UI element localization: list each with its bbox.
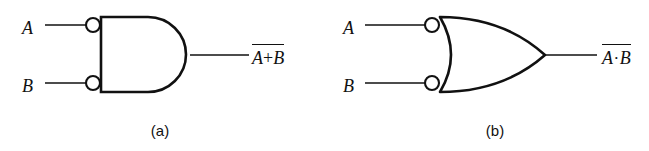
inversion-bubble-b [86,76,100,90]
output-operand-right: B [620,48,631,68]
output-expression-b: A·B [602,44,631,67]
output-operand-left: A [602,48,613,68]
inversion-bubble-b [425,76,439,90]
caption-b: (b) [465,123,525,138]
or-gate-body [440,17,545,92]
input-label-a: A [22,19,33,37]
output-expression-a: A+B [252,44,284,67]
input-label-a: A [343,19,354,37]
and-gate-body [101,17,186,92]
gate-panel-a: A B A+B (a) [0,0,325,151]
logic-gate-figure: A B A+B (a) A B A·B (b) [0,0,649,151]
inversion-bubble-a [425,18,439,32]
gate-panel-b: A B A·B (b) [325,0,649,151]
output-operator: · [613,49,620,68]
output-operand-left: A [252,48,263,68]
inversion-bubble-a [86,18,100,32]
input-label-b: B [343,77,354,95]
output-operator: + [263,48,273,68]
caption-a: (a) [130,123,190,138]
input-label-b: B [22,77,33,95]
output-operand-right: B [273,48,284,68]
